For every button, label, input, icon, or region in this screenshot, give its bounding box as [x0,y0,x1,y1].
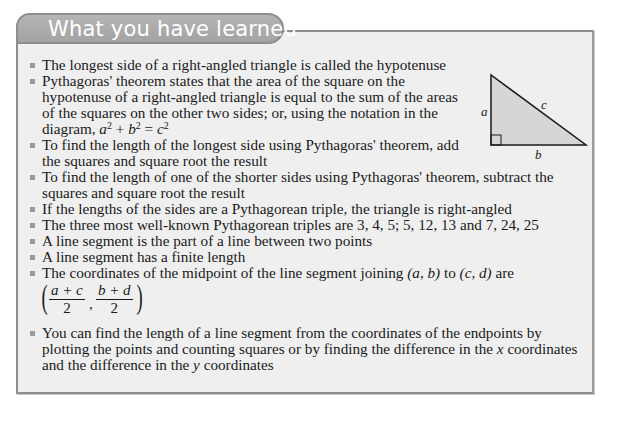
point-text: are [492,264,514,281]
bullet-square-icon [30,239,35,244]
fraction-x-numerator: a + c [49,282,85,300]
point-text: The three most well-known Pythagorean tr… [42,216,539,233]
equation-c: c [157,120,164,137]
midpoint-formula: ( a + c 2 , b + d 2 ) [42,282,586,312]
bullet-square-icon [30,255,35,260]
bullet-square-icon [30,175,35,180]
bullet-square-icon [30,331,35,336]
point-text: To find the length of the longest side u… [42,136,459,169]
point-cd: (c, d) [460,264,492,281]
fraction-y-denominator: 2 [96,300,133,317]
equation-operator: = [141,120,157,137]
equation-operator: + [112,120,128,137]
point-text: If the lengths of the sides are a Pythag… [42,200,512,217]
equation-a: a [99,120,107,137]
bullet-square-icon [30,79,35,84]
exponent: 2 [164,120,169,131]
point-text: The longest side of a right-angled trian… [42,56,446,73]
point-ab: (a, b) [407,264,440,281]
fraction-y-numerator: b + d [96,282,133,300]
bullet-square-icon [30,207,35,212]
point-text: The coordinates of the midpoint of the l… [42,264,407,281]
point-text: You can find the length of a line segmen… [42,324,542,357]
header-tab: What you have learned [16,13,284,44]
bullet-square-icon [30,271,35,276]
point-text: to [440,264,459,281]
list-item: To find the length of the longest side u… [26,137,472,169]
list-item: Pythagoras' theorem states that the area… [26,73,460,137]
point-text: To find the length of one of the shorter… [42,168,554,201]
bullet-square-icon [30,63,35,68]
point-text: A line segment is the part of a line bet… [42,232,372,249]
header-title: What you have learned [48,16,297,42]
list-item: A line segment is the part of a line bet… [26,233,586,249]
list-item: To find the length of one of the shorter… [26,169,586,201]
list-item: A line segment has a finite length [26,249,586,265]
point-text: coordinates [200,356,274,373]
bullet-square-icon [30,143,35,148]
list-item: If the lengths of the sides are a Pythag… [26,201,586,217]
list-item: The longest side of a right-angled trian… [26,57,586,73]
fraction-x: a + c 2 [49,282,85,317]
list-item: The coordinates of the midpoint of the l… [26,265,586,312]
bullet-square-icon [30,223,35,228]
list-item: You can find the length of a line segmen… [26,325,586,373]
var-x: x [497,340,504,357]
fraction-y: b + d 2 [96,282,133,317]
fraction-x-denominator: 2 [49,300,85,317]
close-paren: ) [137,278,143,316]
var-y: y [193,356,200,373]
open-paren: ( [42,278,48,316]
equation-b: b [128,120,136,137]
learning-points-list: The longest side of a right-angled trian… [26,57,586,373]
formula-comma: , [89,296,93,312]
list-item: The three most well-known Pythagorean tr… [26,217,586,233]
point-text: A line segment has a finite length [42,248,245,265]
